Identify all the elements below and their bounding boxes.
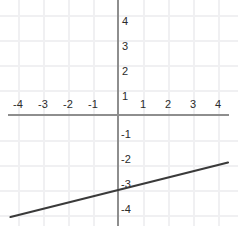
y-tick-label--2: -2: [121, 153, 137, 165]
gridline-horizontal: [0, 40, 238, 42]
y-tick-label-4: 4: [122, 15, 138, 27]
y-axis: [117, 0, 119, 226]
y-tick-label-2: 2: [122, 65, 138, 77]
graph-figure: ) -4 -3 -2 -1 1 2 3 4 4 3 2: [0, 0, 238, 237]
x-tick-label--4: -4: [10, 98, 26, 110]
x-tick-label--2: -2: [60, 98, 76, 110]
gridline-horizontal: [0, 190, 238, 192]
gridline-vertical: [143, 0, 145, 226]
x-tick-label--3: -3: [35, 98, 51, 110]
gridline-horizontal: [0, 90, 238, 92]
gridline-vertical: [68, 0, 70, 226]
y-tick-label-3: 3: [122, 40, 138, 52]
gridline-horizontal: [0, 215, 238, 217]
gridline-horizontal: [0, 15, 238, 17]
x-tick-label-4: 4: [210, 98, 226, 110]
gridline-vertical: [43, 0, 45, 226]
y-tick-label--4: -4: [121, 203, 137, 215]
y-tick-label-1: 1: [122, 90, 138, 102]
y-tick-label--3: -3: [121, 178, 137, 190]
gridline-horizontal: [0, 65, 238, 67]
x-tick-label--1: -1: [85, 98, 101, 110]
plot-area: -4 -3 -2 -1 1 2 3 4 4 3 2 1 -1 -2 -3 -4: [0, 0, 238, 226]
x-tick-label-2: 2: [160, 98, 176, 110]
gridline-vertical: [168, 0, 170, 226]
gridline-vertical: [193, 0, 195, 226]
line-plot: [0, 0, 238, 237]
gridline-horizontal: [0, 165, 238, 167]
gridline-vertical: [93, 0, 95, 226]
gridline-vertical: [218, 0, 220, 226]
gridline-horizontal: [0, 140, 238, 142]
gridline-vertical: [18, 0, 20, 226]
y-tick-label--1: -1: [121, 128, 137, 140]
x-tick-label-3: 3: [185, 98, 201, 110]
